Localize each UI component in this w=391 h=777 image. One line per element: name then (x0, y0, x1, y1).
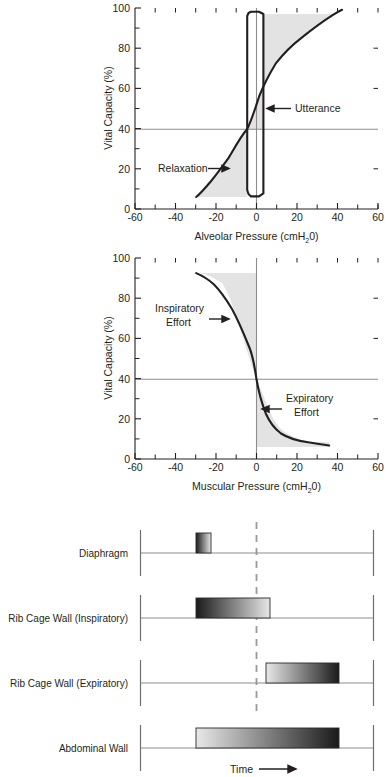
utterance-arrow-head (267, 105, 274, 111)
x-tick-label-60: 60 (372, 461, 384, 473)
row-label-rib-cage-expiratory: Rib Cage Wall (Expiratory) (10, 678, 128, 689)
top-edge-ticks (155, 8, 378, 13)
right-edge-ticks (374, 48, 379, 209)
bar-rib-cage-expiratory (266, 663, 339, 683)
x-tick-label-0: 0 (254, 211, 260, 223)
y-axis-title: Vital Capacity (%) (102, 316, 114, 399)
x-axis-title: Muscular Pressure (cmH20) (192, 480, 321, 494)
x-tick-label-m60: -60 (127, 461, 142, 473)
x-tick-label-m20: -20 (208, 461, 223, 473)
expiratory-effort-label-line1: Expiratory (286, 392, 334, 404)
utterance-label: Utterance (295, 102, 341, 114)
row-label-abdominal-wall: Abdominal Wall (59, 743, 128, 754)
muscle-activity-timeline: Diaphragm Rib Cage Wall (Inspiratory) Ri… (0, 500, 391, 777)
y-tick-label-60: 60 (118, 82, 130, 94)
y-tick-label-40: 40 (118, 123, 130, 135)
time-axis-annotation: Time (230, 763, 296, 775)
alveolar-pressure-panel: 100 80 60 40 20 0 -60 -40 -20 0 20 40 60… (0, 0, 391, 250)
x-axis-ticks (135, 203, 378, 209)
respiratory-figure: 100 80 60 40 20 0 -60 -40 -20 0 20 40 60… (0, 0, 391, 777)
muscle-activity-timeline-panel: Diaphragm Rib Cage Wall (Inspiratory) Ri… (0, 500, 391, 777)
x-tick-label-m60: -60 (127, 211, 142, 223)
x-axis-title: Alveolar Pressure (cmH20) (194, 230, 318, 244)
shaded-regions (196, 273, 329, 447)
muscular-pressure-chart: 100 80 60 40 20 0 -60 -40 -20 0 20 40 60… (0, 250, 391, 500)
y-tick-label-20: 20 (118, 163, 130, 175)
x-tick-label-20: 20 (291, 211, 303, 223)
inspiratory-effort-label-line2: Effort (166, 316, 191, 328)
right-edge-ticks (374, 298, 379, 419)
inspiratory-effort-annotation: Inspiratory Effort (155, 302, 229, 328)
svg-text:Muscular Pressure (cmH20): Muscular Pressure (cmH20) (192, 480, 321, 494)
y-axis-ticks (135, 8, 141, 209)
row-label-diaphragm: Diaphragm (79, 548, 128, 559)
bar-abdominal-wall (196, 728, 339, 748)
utterance-annotation: Utterance (267, 102, 341, 114)
y-tick-label-40: 40 (118, 373, 130, 385)
bar-rib-cage-inspiratory (196, 598, 270, 618)
inspiratory-arrow-head (222, 316, 229, 322)
y-tick-label-60: 60 (118, 332, 130, 344)
x-axis-title-tail: 0) (312, 480, 321, 492)
muscular-pressure-panel: 100 80 60 40 20 0 -60 -40 -20 0 20 40 60… (0, 250, 391, 500)
expiratory-effort-label-line2: Effort (294, 406, 319, 418)
y-tick-label-80: 80 (118, 42, 130, 54)
x-axis-ticks (135, 453, 378, 459)
time-label: Time (230, 763, 253, 775)
row-label-rib-cage-inspiratory: Rib Cage Wall (Inspiratory) (8, 613, 128, 624)
timeline-row-rib-cage-inspiratory: Rib Cage Wall (Inspiratory) (8, 595, 374, 641)
x-tick-label-m40: -40 (168, 211, 183, 223)
y-axis-title: Vital Capacity (%) (102, 66, 114, 149)
x-axis-title-tail: 0) (309, 230, 318, 242)
top-edge-ticks (155, 258, 378, 263)
timeline-row-diaphragm: Diaphragm (79, 530, 374, 576)
timeline-row-rib-cage-expiratory: Rib Cage Wall (Expiratory) (10, 660, 374, 706)
alveolar-pressure-chart: 100 80 60 40 20 0 -60 -40 -20 0 20 40 60… (0, 0, 391, 250)
x-axis-title-main: Alveolar Pressure (cmH (194, 230, 305, 242)
inspiratory-effort-label-line1: Inspiratory (155, 302, 205, 314)
x-axis-title-main: Muscular Pressure (cmH (192, 480, 308, 492)
x-tick-label-60: 60 (372, 211, 384, 223)
timeline-row-abdominal-wall: Abdominal Wall (59, 725, 374, 771)
bar-diaphragm (196, 533, 211, 553)
expiratory-effort-annotation: Expiratory Effort (262, 392, 334, 418)
x-tick-label-m40: -40 (168, 461, 183, 473)
y-axis-ticks (135, 258, 141, 459)
svg-text:Alveolar Pressure (cmH20): Alveolar Pressure (cmH20) (194, 230, 318, 244)
x-tick-label-40: 40 (332, 461, 344, 473)
x-tick-label-0: 0 (254, 461, 260, 473)
y-tick-label-20: 20 (118, 413, 130, 425)
x-tick-label-40: 40 (332, 211, 344, 223)
y-tick-label-80: 80 (118, 292, 130, 304)
x-tick-label-20: 20 (291, 461, 303, 473)
y-tick-label-100: 100 (112, 2, 130, 14)
y-tick-label-100: 100 (112, 252, 130, 264)
time-arrow-head (288, 765, 296, 772)
x-tick-label-m20: -20 (208, 211, 223, 223)
relaxation-label: Relaxation (158, 162, 208, 174)
